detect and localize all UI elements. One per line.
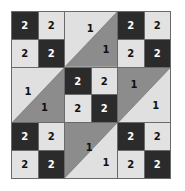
triangle-label-mid: 1: [102, 44, 109, 55]
grid-cell[interactable]: 2: [118, 151, 144, 178]
half-square-triangle-shape: [12, 68, 64, 123]
grid-cell[interactable]: 2: [118, 123, 144, 150]
grid-cell[interactable]: 2: [12, 123, 38, 150]
puzzle-board: 2 2 2 2 1 1 2 2 2 2 1 1 2 2 2 2: [11, 11, 171, 179]
checker-block-bottom-right: 2 2 2 2: [118, 123, 170, 178]
grid-cell[interactable]: 2: [39, 40, 65, 67]
triangle-label-mid: 1: [86, 142, 93, 153]
grid-cell[interactable]: 2: [145, 151, 171, 178]
triangle-label-light: 1: [24, 86, 31, 97]
checker-block-top-right: 2 2 2 2: [118, 12, 170, 67]
grid-cell[interactable]: 2: [12, 12, 38, 39]
grid-cell[interactable]: 2: [65, 68, 91, 95]
grid-cell[interactable]: 2: [145, 40, 171, 67]
grid-cell[interactable]: 2: [145, 123, 171, 150]
grid-cell[interactable]: 2: [145, 12, 171, 39]
triangle-block-middle-left[interactable]: 1 1: [12, 68, 64, 123]
checker-block-top-left: 2 2 2 2: [12, 12, 64, 67]
triangle-block-middle-right[interactable]: 1 1: [118, 68, 170, 123]
grid-cell[interactable]: 2: [92, 95, 118, 122]
grid-cell[interactable]: 2: [39, 12, 65, 39]
triangle-label-light: 1: [102, 157, 109, 168]
triangle-label-mid: 1: [130, 79, 137, 90]
grid-cell[interactable]: 2: [92, 68, 118, 95]
triangle-label-mid: 1: [41, 102, 48, 113]
grid-cell[interactable]: 2: [118, 40, 144, 67]
half-square-triangle-shape: [118, 68, 170, 123]
triangle-block-bottom-middle[interactable]: 1 1: [65, 123, 117, 178]
triangle-block-top-middle[interactable]: 1 1: [65, 12, 117, 67]
grid-cell[interactable]: 2: [39, 151, 65, 178]
grid-cell[interactable]: 2: [39, 123, 65, 150]
grid-cell[interactable]: 2: [12, 151, 38, 178]
checker-block-center: 2 2 2 2: [65, 68, 117, 123]
triangle-label-light: 1: [87, 23, 94, 34]
triangle-label-light: 1: [152, 100, 159, 111]
grid-cell[interactable]: 2: [118, 12, 144, 39]
grid-cell[interactable]: 2: [12, 40, 38, 67]
half-square-triangle-shape: [65, 12, 117, 67]
checker-block-bottom-left: 2 2 2 2: [12, 123, 64, 178]
grid-cell[interactable]: 2: [65, 95, 91, 122]
